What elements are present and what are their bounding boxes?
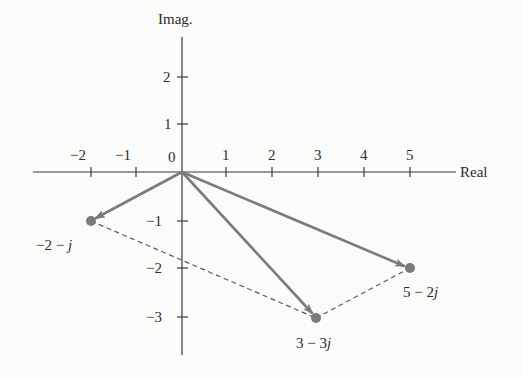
point-5-minus-2j [405,263,415,273]
dashed-segment-b-to-c [316,268,410,318]
x-tick-label: 1 [222,147,230,163]
vector-minus2-minus-j [96,172,182,218]
point-3-minus-3j [311,313,321,323]
x-tick-label: 5 [406,147,414,163]
complex-plane-diagram: Real Imag. 0 −2 −1 1 2 3 4 5 2 1 −1 −2 −… [0,0,523,377]
y-tick-label: 1 [164,116,172,132]
y-tick-labels: 2 1 −1 −2 −3 [146,69,172,325]
x-tick-label: 3 [314,147,322,163]
label-real-part: 5 − 2 [403,284,434,300]
x-tick-label: −2 [70,147,86,163]
x-tick-labels: −2 −1 1 2 3 4 5 [70,147,414,163]
point-minus2-minus-j [86,216,96,226]
point-label-3-minus-3j: 3 − 3j [296,335,331,351]
dashed-segment-a-to-b [91,221,316,318]
origin-label: 0 [168,149,176,165]
point-label-5-minus-2j: 5 − 2j [403,284,438,300]
point-label-minus2-minus-j: −2 − j [36,237,72,253]
x-tick-label: 4 [360,147,368,163]
label-real-part: −2 − [36,237,68,253]
y-tick-label: 2 [163,69,171,85]
label-real-part: 3 − 3 [296,335,327,351]
y-tick-label: −1 [146,213,162,229]
y-tick-label: −3 [146,309,162,325]
vector-5-minus-2j [182,172,404,266]
x-tick-label: 2 [268,147,276,163]
imag-axis-label: Imag. [158,11,193,27]
x-tick-label: −1 [115,147,131,163]
y-tick-label: −2 [146,260,162,276]
real-axis-label: Real [460,164,488,180]
vector-3-minus-3j [182,172,312,313]
